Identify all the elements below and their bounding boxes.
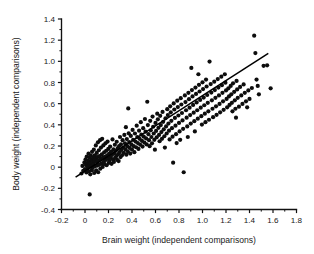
data-point <box>179 96 183 100</box>
data-point <box>168 104 172 108</box>
data-point <box>110 137 114 141</box>
data-point <box>170 135 174 139</box>
data-point <box>217 93 221 97</box>
x-tick-label: 0.6 <box>150 216 162 225</box>
data-point <box>262 64 266 68</box>
data-point <box>126 106 130 110</box>
data-point <box>218 110 222 114</box>
data-point <box>243 91 247 95</box>
data-point <box>189 66 193 70</box>
x-tick-label: 1.8 <box>291 216 303 225</box>
data-point <box>150 114 154 118</box>
data-point <box>211 115 215 119</box>
y-tick-label: 0.6 <box>44 100 56 109</box>
y-tick-label: 0 <box>50 163 55 172</box>
data-point <box>117 159 121 163</box>
data-point <box>189 121 193 125</box>
chart-canvas: -0.200.20.40.60.81.01.21.41.61.8 -0.4-0.… <box>0 0 314 254</box>
data-point <box>170 126 174 130</box>
data-point <box>257 92 261 96</box>
data-point <box>100 137 104 141</box>
data-point <box>173 116 177 120</box>
data-point <box>88 172 92 176</box>
x-tick-label: 1.4 <box>244 216 256 225</box>
data-point <box>128 152 132 156</box>
data-point <box>231 81 235 85</box>
data-point <box>244 99 248 103</box>
y-tick-label: 1.2 <box>44 36 56 45</box>
data-point <box>233 107 237 111</box>
data-point <box>132 150 136 154</box>
x-tick-label: 0.2 <box>103 216 115 225</box>
data-point <box>145 100 149 104</box>
x-tick-label: 0 <box>83 216 88 225</box>
data-point <box>203 112 207 116</box>
data-point <box>217 102 221 106</box>
data-point <box>238 85 242 89</box>
data-point <box>133 131 137 135</box>
data-point <box>214 104 218 108</box>
data-point <box>172 101 176 105</box>
data-point <box>219 75 223 79</box>
data-point <box>195 108 199 112</box>
data-point <box>175 99 179 103</box>
data-point <box>183 100 187 104</box>
data-point <box>156 117 160 121</box>
data-point <box>187 106 191 110</box>
data-point <box>215 113 219 117</box>
data-point <box>197 89 201 93</box>
data-point <box>201 87 205 91</box>
data-point <box>186 91 190 95</box>
data-point <box>254 77 258 81</box>
y-axis-title: Body weight (independent comparisons) <box>11 37 21 190</box>
data-point <box>150 141 154 145</box>
data-point <box>206 101 210 105</box>
data-point <box>192 111 196 115</box>
data-point <box>269 86 273 90</box>
data-point <box>240 102 244 106</box>
y-tick-label: -0.2 <box>41 184 55 193</box>
data-point <box>252 34 256 38</box>
y-tick-label: 1.4 <box>44 15 56 24</box>
data-point <box>210 98 214 102</box>
scatter-plot-figure: -0.200.20.40.60.81.01.21.41.61.8 -0.4-0.… <box>0 0 314 254</box>
data-point <box>88 192 92 196</box>
data-point <box>183 93 187 97</box>
data-point <box>221 99 225 103</box>
x-tick-label: 1.0 <box>197 216 209 225</box>
data-point <box>209 82 213 86</box>
data-point <box>160 110 164 114</box>
data-point <box>171 161 175 165</box>
data-point <box>175 141 179 145</box>
data-point <box>193 85 197 89</box>
data-point <box>96 170 100 174</box>
data-point <box>234 79 238 83</box>
x-tick-label: 1.2 <box>220 216 232 225</box>
data-point <box>140 144 144 148</box>
data-point <box>193 129 197 133</box>
data-point <box>192 119 196 123</box>
data-point <box>122 133 126 137</box>
data-point <box>239 93 243 97</box>
data-point <box>236 96 240 100</box>
data-point <box>135 124 139 128</box>
data-point <box>185 116 189 120</box>
data-point <box>177 121 181 125</box>
data-point <box>177 129 181 133</box>
data-point <box>174 132 178 136</box>
data-point <box>205 84 209 88</box>
y-tick-label: -0.4 <box>41 206 55 215</box>
data-point <box>143 117 147 121</box>
data-point <box>237 105 241 109</box>
data-point <box>197 83 201 87</box>
data-point <box>256 84 260 88</box>
data-point <box>153 148 157 152</box>
data-point <box>169 110 173 114</box>
data-point <box>199 106 203 110</box>
x-tick-label: 0.4 <box>126 216 138 225</box>
data-point <box>207 118 211 122</box>
data-point <box>139 120 143 124</box>
y-tick-label: 0.4 <box>44 121 56 130</box>
data-point <box>247 97 251 101</box>
data-point <box>181 127 185 131</box>
